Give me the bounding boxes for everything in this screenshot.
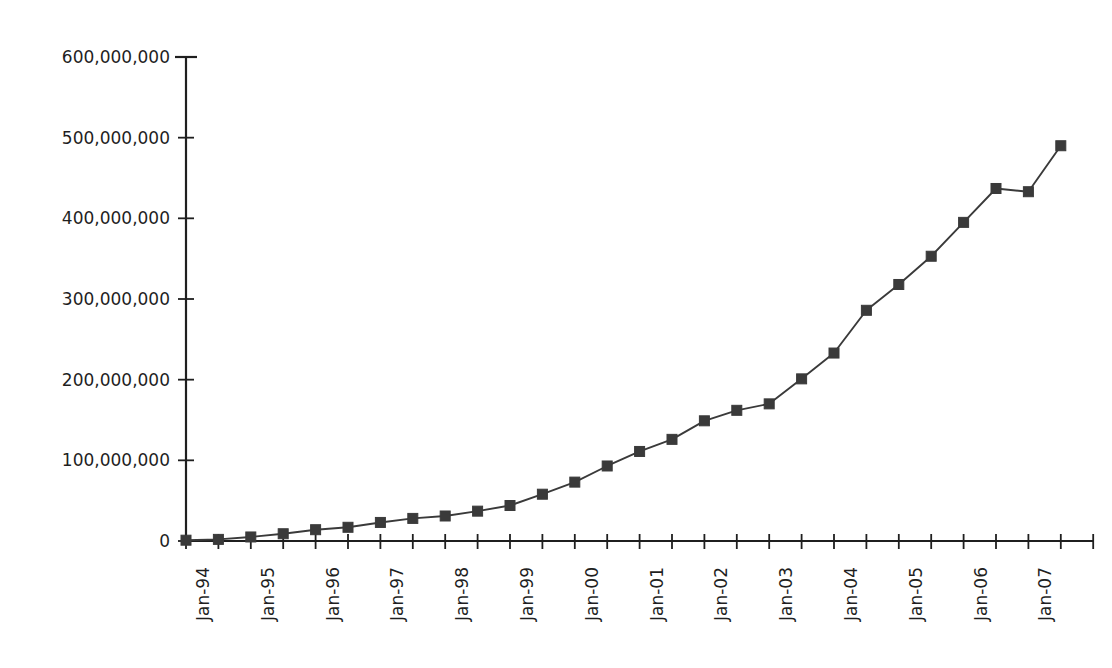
data-point-marker bbox=[311, 525, 321, 535]
data-point-marker bbox=[440, 511, 450, 521]
data-point-marker bbox=[861, 305, 871, 315]
data-point-marker bbox=[732, 405, 742, 415]
data-point-marker bbox=[894, 279, 904, 289]
chart-container: 0100,000,000200,000,000300,000,000400,00… bbox=[0, 0, 1112, 668]
y-axis-tick-label: 100,000,000 bbox=[62, 450, 170, 470]
data-point-marker bbox=[375, 517, 385, 527]
data-point-marker bbox=[505, 501, 515, 511]
data-series bbox=[181, 141, 1066, 545]
data-point-marker bbox=[1023, 187, 1033, 197]
data-point-marker bbox=[246, 532, 256, 542]
data-point-marker bbox=[602, 461, 612, 471]
x-axis-tick-label: Jan-06 bbox=[971, 567, 991, 621]
data-point-marker bbox=[829, 348, 839, 358]
x-axis-tick-label: Jan-05 bbox=[906, 567, 926, 621]
data-point-marker bbox=[537, 489, 547, 499]
data-point-marker bbox=[797, 374, 807, 384]
x-axis-tick-label: Jan-00 bbox=[582, 567, 602, 621]
series-line bbox=[186, 146, 1061, 540]
data-point-marker bbox=[635, 446, 645, 456]
x-axis-tick-label: Jan-94 bbox=[193, 567, 213, 621]
y-axis-tick-label: 400,000,000 bbox=[62, 208, 170, 228]
x-axis-tick-label: Jan-07 bbox=[1035, 567, 1055, 621]
data-point-marker bbox=[278, 529, 288, 539]
data-point-marker bbox=[991, 183, 1001, 193]
line-chart-plot bbox=[0, 0, 1112, 668]
data-point-marker bbox=[699, 416, 709, 426]
data-point-marker bbox=[764, 399, 774, 409]
x-axis-tick-label: Jan-02 bbox=[711, 567, 731, 621]
x-axis-tick-label: Jan-96 bbox=[323, 567, 343, 621]
x-axis-tick-label: Jan-98 bbox=[452, 567, 472, 621]
data-point-marker bbox=[181, 535, 191, 545]
data-point-marker bbox=[1056, 141, 1066, 151]
x-axis-tick-label: Jan-97 bbox=[387, 567, 407, 621]
chart-axes bbox=[175, 57, 1093, 549]
y-axis-tick-label: 300,000,000 bbox=[62, 289, 170, 309]
data-point-marker bbox=[667, 434, 677, 444]
y-axis-tick-label: 600,000,000 bbox=[62, 47, 170, 67]
data-point-marker bbox=[959, 217, 969, 227]
data-point-marker bbox=[343, 522, 353, 532]
data-point-marker bbox=[570, 477, 580, 487]
y-axis-tick-label: 0 bbox=[159, 531, 170, 551]
x-axis-tick-label: Jan-95 bbox=[258, 567, 278, 621]
y-axis-tick-label: 500,000,000 bbox=[62, 128, 170, 148]
y-axis-tick-label: 200,000,000 bbox=[62, 370, 170, 390]
x-axis-tick-label: Jan-03 bbox=[776, 567, 796, 621]
data-point-marker bbox=[473, 506, 483, 516]
x-axis-tick-label: Jan-01 bbox=[647, 567, 667, 621]
data-point-marker bbox=[213, 534, 223, 544]
data-point-marker bbox=[408, 513, 418, 523]
x-axis-tick-label: Jan-99 bbox=[517, 567, 537, 621]
x-axis-tick-label: Jan-04 bbox=[841, 567, 861, 621]
data-point-marker bbox=[926, 251, 936, 261]
